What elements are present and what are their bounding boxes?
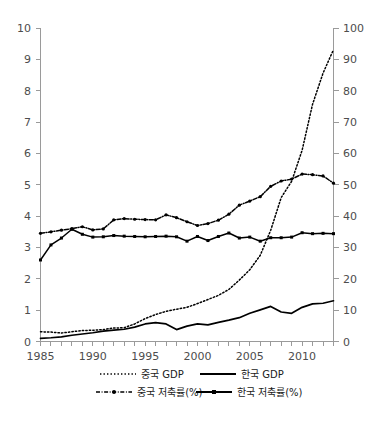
x-axis-tick-labels: 198519901995200020052010 <box>27 350 317 363</box>
right-y-axis-ticks <box>334 28 339 342</box>
data-point-marker <box>102 235 105 238</box>
x-axis-tick-label: 2000 <box>183 350 211 363</box>
data-point-marker <box>227 213 230 216</box>
data-point-marker <box>280 236 283 239</box>
left-axis-tick-label: 4 <box>24 210 31 223</box>
x-axis-tick-label: 2005 <box>236 350 264 363</box>
right-axis-tick-label: 90 <box>343 53 357 66</box>
data-point-marker <box>217 219 220 222</box>
right-axis-tick-label: 60 <box>343 147 357 160</box>
right-axis-tick-label: 100 <box>343 22 364 35</box>
data-point-marker <box>196 224 199 227</box>
left-y-axis: 012345678910 <box>17 22 41 349</box>
data-point-marker <box>259 240 262 243</box>
series-line-3 <box>41 229 334 260</box>
data-point-marker <box>60 229 63 232</box>
data-point-marker <box>290 236 293 239</box>
chart-container: 012345678910 0102030405060708090100 1985… <box>0 0 377 422</box>
chart-legend: 중국 GDP한국 GDP중국 저축률(%)한국 저축률(%) <box>96 369 303 398</box>
left-axis-tick-label: 8 <box>24 85 31 98</box>
series-line-2 <box>41 174 334 233</box>
data-point-marker <box>164 213 167 216</box>
left-axis-tick-label: 2 <box>24 273 31 286</box>
left-axis-tick-label: 10 <box>17 22 31 35</box>
data-point-marker <box>186 240 189 243</box>
data-point-marker <box>81 233 84 236</box>
data-point-marker <box>49 243 52 246</box>
data-point-marker <box>322 232 325 235</box>
legend-marker <box>212 390 216 394</box>
data-point-marker <box>185 220 188 223</box>
data-point-marker <box>154 235 157 238</box>
data-point-marker <box>238 204 241 207</box>
data-point-marker <box>269 185 272 188</box>
data-point-marker <box>60 237 63 240</box>
data-point-marker <box>165 235 168 238</box>
right-axis-tick-label: 80 <box>343 85 357 98</box>
data-point-marker <box>280 179 283 182</box>
right-axis-tick-label: 70 <box>343 116 357 129</box>
data-point-marker <box>217 235 220 238</box>
left-y-axis-tick-labels: 012345678910 <box>17 22 31 349</box>
left-axis-tick-label: 5 <box>24 179 31 192</box>
series-layer <box>39 50 335 339</box>
legend-item-2[interactable]: 중국 저축률(%) <box>96 387 203 398</box>
data-point-marker <box>206 222 209 225</box>
data-point-marker <box>144 218 147 221</box>
data-point-marker <box>39 258 42 261</box>
data-point-marker <box>196 235 199 238</box>
data-point-marker <box>238 237 241 240</box>
legend-item-3[interactable]: 한국 저축률(%) <box>196 387 303 398</box>
data-point-marker <box>133 235 136 238</box>
left-axis-tick-label: 7 <box>24 116 31 129</box>
data-point-marker <box>123 235 126 238</box>
legend-label: 한국 GDP <box>241 369 284 380</box>
data-point-marker <box>112 218 115 221</box>
data-point-marker <box>248 199 251 202</box>
right-y-axis: 0102030405060708090100 <box>334 22 365 349</box>
right-axis-tick-label: 0 <box>343 336 350 349</box>
legend-marker <box>112 390 116 394</box>
data-point-marker <box>81 225 84 228</box>
data-point-marker <box>227 232 230 235</box>
left-axis-tick-label: 1 <box>24 304 31 317</box>
series-line-1 <box>41 301 334 339</box>
legend-label: 중국 GDP <box>141 369 184 380</box>
data-point-marker <box>321 174 324 177</box>
left-axis-tick-label: 0 <box>24 336 31 349</box>
data-point-marker <box>269 236 272 239</box>
right-axis-tick-label: 10 <box>343 304 357 317</box>
x-axis-tick-label: 1995 <box>131 350 159 363</box>
data-point-marker <box>123 217 126 220</box>
dual-axis-line-chart: 012345678910 0102030405060708090100 1985… <box>0 0 377 422</box>
legend-item-0[interactable]: 중국 GDP <box>100 369 184 380</box>
right-axis-tick-label: 30 <box>343 241 357 254</box>
left-y-axis-ticks <box>36 28 41 342</box>
data-point-marker <box>91 228 94 231</box>
data-point-marker <box>154 218 157 221</box>
data-point-marker <box>206 239 209 242</box>
data-point-marker <box>133 218 136 221</box>
data-point-marker <box>301 231 304 234</box>
legend-label: 한국 저축률(%) <box>237 387 303 398</box>
data-point-marker <box>102 227 105 230</box>
left-axis-tick-label: 9 <box>24 53 31 66</box>
data-point-marker <box>112 234 115 237</box>
right-axis-tick-label: 20 <box>343 273 357 286</box>
legend-item-1[interactable]: 한국 GDP <box>200 369 284 380</box>
x-axis: 198519901995200020052010 <box>27 342 334 364</box>
data-point-marker <box>290 178 293 181</box>
data-point-marker <box>175 216 178 219</box>
series-line-0 <box>41 50 334 333</box>
data-point-marker <box>311 173 314 176</box>
data-point-marker <box>70 228 73 231</box>
data-point-marker <box>301 172 304 175</box>
data-point-marker <box>311 232 314 235</box>
data-point-marker <box>49 230 52 233</box>
right-axis-tick-label: 50 <box>343 179 357 192</box>
data-point-marker <box>144 235 147 238</box>
x-axis-tick-label: 1990 <box>79 350 107 363</box>
data-point-marker <box>259 195 262 198</box>
legend-label: 중국 저축률(%) <box>137 387 203 398</box>
data-point-marker <box>39 232 42 235</box>
